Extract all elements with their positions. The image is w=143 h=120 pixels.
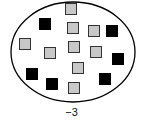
negative-counter-square <box>39 18 51 30</box>
negative-counter-square <box>46 78 58 90</box>
value-label: −3 <box>0 106 143 118</box>
negative-counter-square <box>99 73 111 85</box>
positive-counter-square <box>67 22 79 34</box>
negative-counter-square <box>106 25 118 37</box>
positive-counter-square <box>68 82 80 94</box>
positive-counter-square <box>44 47 56 59</box>
negative-counter-square <box>112 53 124 65</box>
positive-counter-square <box>72 62 84 74</box>
positive-counter-square <box>88 25 100 37</box>
positive-counter-square <box>90 46 102 58</box>
negative-counter-square <box>26 68 38 80</box>
positive-counter-square <box>65 3 77 15</box>
counter-set-diagram: −3 <box>0 0 143 120</box>
positive-counter-square <box>19 38 31 50</box>
positive-counter-square <box>68 41 80 53</box>
